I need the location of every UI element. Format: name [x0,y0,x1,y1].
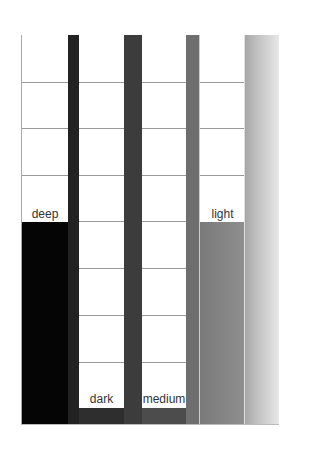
column-light: light [199,35,245,425]
row-line [142,128,186,129]
shade-diagram: deep dark medium light [21,35,279,425]
row-line [22,128,68,129]
label-dark: dark [79,392,124,406]
row-line [200,82,245,83]
row-line [142,362,186,363]
row-line [142,175,186,176]
row-line [79,315,124,316]
column-dark: dark [79,35,124,425]
label-medium: medium [142,392,186,406]
row-line [79,221,124,222]
row-line [200,128,245,129]
label-deep: deep [22,207,68,221]
fill-deep [22,222,68,425]
label-light: light [200,207,245,221]
fill-medium [142,408,186,425]
row-line [142,315,186,316]
fill-dark [79,408,124,425]
row-line [79,175,124,176]
row-line [79,128,124,129]
column-deep: deep [21,35,68,425]
strip-dark [68,35,79,425]
row-line [79,268,124,269]
fill-light [200,222,245,425]
row-line [22,175,68,176]
column-medium: medium [142,35,186,425]
strip-medium [124,35,142,425]
strip-light [186,35,199,425]
gradient-scale [245,35,279,425]
row-line [22,82,68,83]
row-line [142,268,186,269]
bottom-border [21,424,279,425]
row-line [79,362,124,363]
row-line [200,175,245,176]
row-line [79,82,124,83]
row-line [142,82,186,83]
row-line [142,221,186,222]
